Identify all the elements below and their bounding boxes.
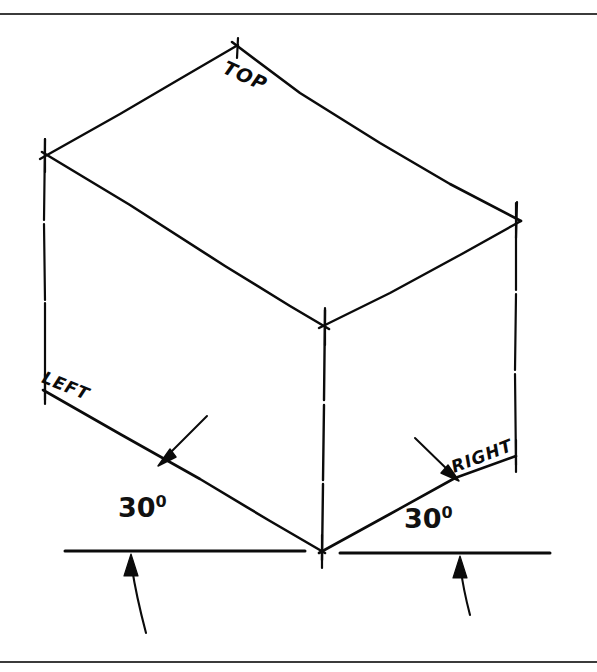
isometric-cube-drawing [0,0,597,672]
edge-vertical-center-b [323,405,324,480]
angle-right-value: 30 [404,503,442,534]
edge-top-left-rear [40,45,238,159]
angle-right-degree-symbol: 0 [442,503,453,522]
callout-arrowhead-right-baseline [453,556,467,578]
vertex-tick-top-apex [237,38,238,58]
vertex-tick-right [516,202,517,238]
angle-label-left: 300 [118,494,167,521]
edge-bottom-left [43,390,325,553]
angle-left-degree-symbol: 0 [156,492,167,511]
edge-top-front-left [42,152,329,329]
angle-left-value: 30 [118,492,156,523]
edge-top-right-rear [232,42,521,221]
callout-curve-left-baseline [132,568,146,633]
edge-vertical-right-b [515,294,516,370]
edge-top-front-right [319,221,521,328]
angle-label-right: 300 [404,505,453,532]
edge-vertical-left-b [44,224,45,300]
callout-arrowhead-left-baseline [124,554,138,576]
figure-page: TOP LEFT RIGHT 300 300 [0,0,597,672]
